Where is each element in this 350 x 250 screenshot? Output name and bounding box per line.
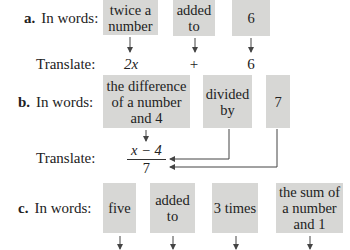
arrow-left-icon <box>170 129 277 167</box>
arrow-left-icon <box>170 129 229 159</box>
arrow-connectors <box>0 0 350 250</box>
